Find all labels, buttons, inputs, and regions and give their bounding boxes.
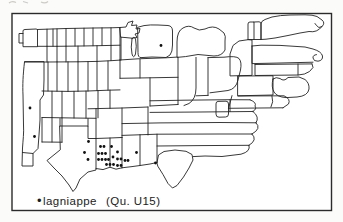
map-marker [112,163,115,166]
map-marker [97,152,100,155]
map-marker [127,159,130,162]
map-marker [101,158,104,161]
map-marker [99,145,102,148]
map-marker [97,158,100,161]
legend-dot-icon: • [37,196,42,206]
map-marker [112,156,115,159]
caption-question-ref: (Qu. U15) [106,195,161,207]
map-marker [29,107,32,110]
map-marker [87,158,90,161]
scan-artifact-marks [9,2,48,4]
map-marker [109,163,112,166]
map-marker [104,158,107,161]
figure: •lagniappe (Qu. U15) [0,0,343,222]
map-marker [103,145,106,148]
map-marker [110,145,113,148]
map-marker [120,164,123,167]
map-marker [116,164,119,167]
map-marker [104,152,107,155]
map-marker [160,44,163,47]
map-marker [135,151,138,154]
map-marker [107,158,110,161]
dare-map [0,0,343,222]
map-caption: •lagniappe (Qu. U15) [37,195,161,207]
map-marker [154,162,157,165]
map-marker [87,140,90,143]
map-marker [116,151,119,154]
map-marker [101,152,104,155]
map-marker [83,151,86,154]
map-marker [116,158,119,161]
map-marker [33,135,36,138]
map-marker [120,158,123,161]
map-marker [124,159,127,162]
map-marker [105,163,108,166]
caption-term: lagniappe [43,195,97,207]
